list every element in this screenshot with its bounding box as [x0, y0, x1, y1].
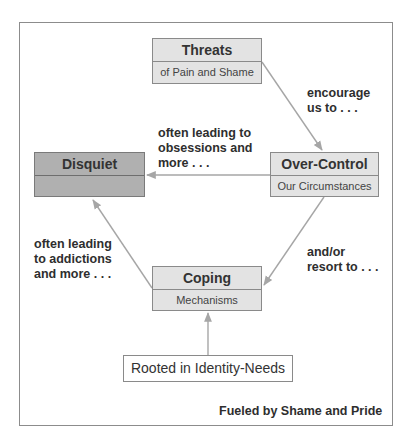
edge-label-addictions: often leading to addictions and more . .…: [34, 237, 112, 282]
node-over-control-title: Over-Control: [271, 153, 378, 176]
node-over-control-subtitle: Our Circumstances: [271, 176, 378, 197]
node-threats-subtitle: of Pain and Shame: [153, 62, 261, 83]
node-rooted: Rooted in Identity-Needs: [123, 355, 293, 382]
edge-label-obsessions: often leading to obsessions and more . .…: [158, 126, 252, 171]
node-coping-title: Coping: [153, 267, 261, 290]
node-disquiet-title: Disquiet: [35, 153, 144, 176]
edge-label-resort: and/or resort to . . .: [307, 245, 379, 275]
node-coping-subtitle: Mechanisms: [153, 290, 261, 311]
edge-label-encourage: encourage us to . . .: [307, 86, 370, 116]
node-rooted-title: Rooted in Identity-Needs: [124, 356, 292, 380]
node-coping: Coping Mechanisms: [152, 266, 262, 311]
node-threats-title: Threats: [153, 39, 261, 62]
node-disquiet-subtitle: [35, 176, 144, 197]
node-disquiet: Disquiet: [34, 152, 145, 197]
footer-label: Fueled by Shame and Pride: [219, 404, 382, 419]
node-threats: Threats of Pain and Shame: [152, 38, 262, 84]
node-over-control: Over-Control Our Circumstances: [270, 152, 379, 197]
